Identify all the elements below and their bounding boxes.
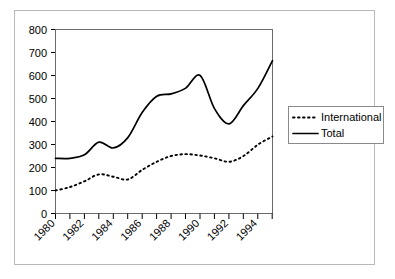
x-tick-label: 1994 — [233, 217, 259, 243]
x-tick-label: 1986 — [118, 217, 144, 243]
y-tick-label: 600 — [29, 70, 47, 82]
plot-area-border — [56, 30, 273, 214]
x-tick-label: 1990 — [176, 217, 202, 243]
series-line-international — [56, 136, 273, 190]
legend-label-international: International — [321, 111, 382, 123]
y-tick-label: 500 — [29, 93, 47, 105]
x-tick-label: 1992 — [205, 217, 231, 243]
y-axis-ticks — [51, 30, 55, 214]
y-tick-label: 0 — [41, 208, 47, 220]
y-tick-label: 200 — [29, 162, 47, 174]
y-axis-labels: 800 700 600 500 400 300 200 100 0 — [29, 24, 47, 220]
y-tick-label: 100 — [29, 185, 47, 197]
legend: International Total — [289, 107, 384, 144]
y-tick-label: 700 — [29, 47, 47, 59]
x-tick-label: 1980 — [31, 217, 57, 243]
y-tick-label: 300 — [29, 139, 47, 151]
legend-label-total: Total — [321, 127, 344, 139]
x-axis-labels: 1980 1982 1984 1986 1988 1990 1992 1994 — [31, 217, 259, 243]
y-tick-label: 800 — [29, 24, 47, 36]
y-tick-label: 400 — [29, 116, 47, 128]
series-line-total — [56, 61, 273, 159]
x-tick-label: 1988 — [147, 217, 173, 243]
x-tick-label: 1982 — [60, 217, 86, 243]
line-chart: 800 700 600 500 400 300 200 100 0 1980 1… — [0, 0, 395, 279]
x-tick-label: 1984 — [89, 217, 115, 243]
